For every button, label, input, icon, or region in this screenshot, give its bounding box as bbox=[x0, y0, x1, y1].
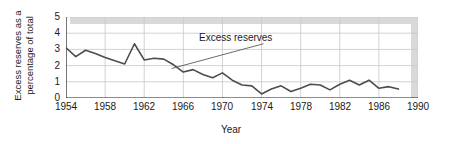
y-axis-title-line-1: Excess reserves as a bbox=[12, 10, 24, 100]
x-tick-label-1990: 1990 bbox=[398, 101, 438, 112]
x-tick-label-1962: 1962 bbox=[124, 101, 164, 112]
series-annotation-label: Excess reserves bbox=[199, 32, 272, 43]
grid-lines bbox=[66, 17, 418, 98]
plot-area bbox=[66, 17, 418, 98]
y-tick-label-4: 4 bbox=[46, 28, 60, 38]
top-shadow-band bbox=[70, 17, 418, 24]
axis-lines bbox=[66, 17, 418, 98]
x-tick-label-1966: 1966 bbox=[163, 101, 203, 112]
series-excess-reserves bbox=[66, 44, 398, 94]
y-tick-label-1: 1 bbox=[46, 77, 60, 87]
x-tick-label-1970: 1970 bbox=[202, 101, 242, 112]
plot-svg bbox=[66, 17, 418, 98]
x-tick-label-1986: 1986 bbox=[359, 101, 399, 112]
x-tick-label-1954: 1954 bbox=[46, 101, 86, 112]
y-axis-title-line-2: percentage of total bbox=[23, 10, 35, 100]
x-tick-label-1982: 1982 bbox=[320, 101, 360, 112]
x-tick-label-1974: 1974 bbox=[242, 101, 282, 112]
y-tick-label-5: 5 bbox=[46, 12, 60, 22]
annotation-leader-line bbox=[172, 44, 264, 69]
y-tick-label-3: 3 bbox=[46, 44, 60, 54]
right-shadow-band bbox=[411, 17, 418, 98]
x-axis-title: Year bbox=[0, 124, 462, 135]
y-tick-label-2: 2 bbox=[46, 61, 60, 71]
chart-figure: Excess reserves as a percentage of total… bbox=[0, 0, 462, 144]
x-tick-label-1958: 1958 bbox=[85, 101, 125, 112]
y-axis-title: Excess reserves as a percentage of total bbox=[0, 0, 46, 110]
x-tick-label-1978: 1978 bbox=[281, 101, 321, 112]
